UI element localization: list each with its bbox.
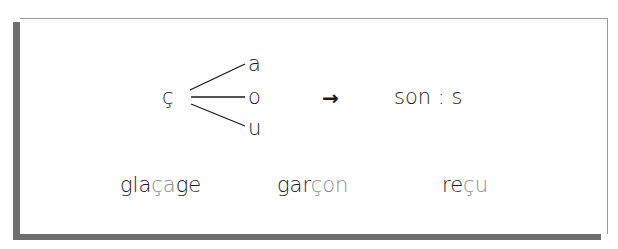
vowel-a: a bbox=[248, 54, 261, 75]
sound-label: son : s bbox=[394, 87, 462, 108]
branch-lines bbox=[20, 19, 608, 235]
example-word-recu: reçu bbox=[442, 175, 488, 196]
branch-line-a bbox=[190, 64, 245, 90]
arrow-icon: → bbox=[322, 88, 339, 108]
rule-card: ç a o u → son : s glaçage garçon reçu bbox=[20, 18, 608, 234]
example-word-garcon: garçon bbox=[277, 175, 348, 196]
branch-line-u bbox=[191, 104, 245, 126]
vowel-o: o bbox=[248, 87, 261, 108]
cedilla-letter: ç bbox=[162, 87, 174, 108]
example-word-glacage: glaçage bbox=[120, 175, 201, 196]
vowel-u: u bbox=[248, 118, 261, 139]
